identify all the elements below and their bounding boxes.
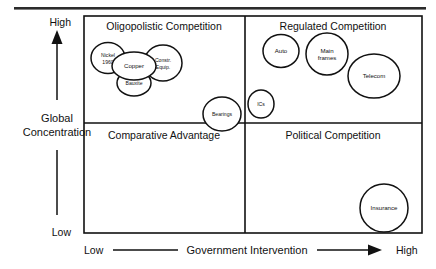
- x-axis-arrowhead: [368, 245, 382, 256]
- top-rule: [14, 7, 426, 10]
- x-axis-high-label: High: [396, 244, 418, 256]
- y-axis-label-line1: Global: [41, 112, 73, 124]
- bubble-label-line1: Nickel: [101, 52, 115, 58]
- bubble-ics[interactable]: ICs: [248, 90, 274, 118]
- bubble-label: Copper: [124, 62, 144, 69]
- bubble-insurance[interactable]: Insurance: [360, 184, 408, 232]
- quadrant-title-bottom-left: Comparative Advantage: [108, 129, 220, 141]
- quadrant-title-bottom-right: Political Competition: [285, 129, 380, 141]
- y-axis-label-line2: Concentration: [23, 126, 92, 138]
- bubble-bearings[interactable]: Bearings: [203, 97, 241, 131]
- bubble-copper[interactable]: Copper: [112, 52, 156, 80]
- bubble-label: Auto: [275, 47, 288, 54]
- bubble-telecom[interactable]: Telecom: [348, 54, 400, 98]
- bubble-label: Insurance: [371, 204, 398, 211]
- bubble-label-line2: frames: [318, 54, 337, 61]
- bubble-label-line2: Equip.: [156, 64, 170, 70]
- bubble-label: ICs: [257, 101, 265, 107]
- bubble-label-line1: Main: [320, 47, 333, 54]
- x-axis-low-label: Low: [84, 244, 104, 256]
- x-axis-label: Government Intervention: [186, 244, 307, 256]
- y-axis-low-label: Low: [52, 226, 72, 238]
- bubble-label: Bauxite: [126, 80, 143, 86]
- bubble-label: Telecom: [363, 72, 386, 79]
- quadrant-title-top-left: Oligopolistic Competition: [106, 20, 222, 32]
- diagram-canvas: High Global Concentration Low Low Govern…: [0, 0, 436, 269]
- y-axis-arrowhead: [52, 30, 63, 44]
- bubble-auto[interactable]: Auto: [263, 35, 299, 68]
- bubble-label: Bearings: [212, 111, 233, 117]
- bubble-label-line1: Constr.: [155, 57, 171, 63]
- bubble-main-frames[interactable]: Main frames: [306, 33, 348, 75]
- quadrant-title-top-right: Regulated Competition: [280, 20, 387, 32]
- y-axis-high-label: High: [49, 16, 71, 28]
